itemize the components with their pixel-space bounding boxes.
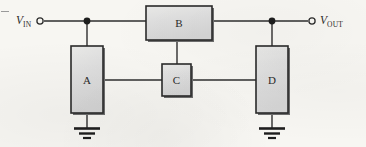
block-d-label: D — [256, 75, 288, 86]
terminal-vin[interactable] — [37, 18, 43, 24]
vin-subscript: IN — [23, 20, 31, 29]
vout-symbol: V — [320, 14, 327, 26]
terminal-vout[interactable] — [309, 18, 315, 24]
terminal-vout-label: VOUT — [320, 15, 343, 29]
circuit-diagram-figure: A B C D VIN VOUT — [0, 0, 366, 147]
junction-dot-output — [269, 18, 276, 25]
block-a-label: A — [71, 75, 103, 86]
terminal-vin-label: VIN — [16, 15, 31, 29]
vout-subscript: OUT — [327, 20, 343, 29]
block-c-label: C — [162, 75, 191, 86]
ground-symbol-a — [74, 129, 100, 139]
vin-symbol: V — [16, 14, 23, 26]
block-b-label: B — [146, 18, 212, 29]
junction-dot-input — [84, 18, 91, 25]
ground-symbol-d — [259, 129, 285, 139]
